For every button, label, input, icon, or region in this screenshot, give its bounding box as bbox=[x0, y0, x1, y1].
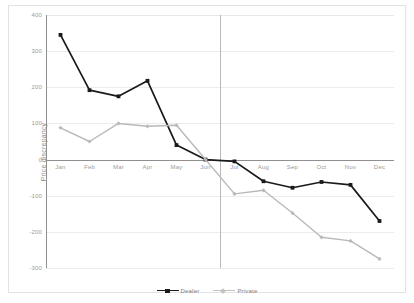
y-axis-tick-label: -100 bbox=[29, 193, 42, 199]
data-point-dealer-jan bbox=[59, 33, 63, 37]
legend-label-private: Private bbox=[237, 288, 257, 294]
price-discrepancy-line-chart: Price discrepancy 4003002001000-100-200-… bbox=[0, 0, 414, 303]
data-point-dealer-oct bbox=[320, 180, 324, 184]
plot-area: 4003002001000-100-200-300JanFebMarAprMay… bbox=[46, 15, 394, 268]
data-point-dealer-jul bbox=[233, 159, 237, 163]
data-point-dealer-may bbox=[175, 143, 179, 147]
data-point-dealer-sep bbox=[291, 186, 295, 190]
legend-label-dealer: Dealer bbox=[181, 288, 200, 294]
y-axis-tick-label: 400 bbox=[31, 12, 42, 18]
legend-line-marker-private-icon bbox=[213, 287, 235, 294]
legend-entry-dealer: Dealer bbox=[157, 287, 200, 294]
data-point-dealer-aug bbox=[262, 179, 266, 183]
data-point-dealer-feb bbox=[88, 88, 92, 92]
y-gridline bbox=[46, 268, 394, 269]
series-line-dealer bbox=[61, 35, 380, 221]
legend-line-marker-dealer-icon bbox=[157, 287, 179, 294]
series-line-private bbox=[61, 123, 380, 259]
chart-legend: Dealer Private bbox=[0, 287, 414, 294]
data-point-dealer-nov bbox=[349, 183, 353, 187]
y-axis-tick-label: -200 bbox=[29, 229, 42, 235]
data-point-private-apr bbox=[145, 124, 149, 128]
y-axis-tick-label: 0 bbox=[38, 157, 42, 163]
y-axis-tick-label: 300 bbox=[31, 48, 42, 54]
y-axis-tick-label: -300 bbox=[29, 265, 42, 271]
data-point-dealer-mar bbox=[117, 94, 121, 98]
legend-entry-private: Private bbox=[213, 287, 257, 294]
series-layer bbox=[46, 15, 394, 268]
data-point-dealer-dec bbox=[378, 219, 382, 223]
y-axis-tick-label: 200 bbox=[31, 84, 42, 90]
y-axis-tick-label: 100 bbox=[31, 120, 42, 126]
data-point-dealer-apr bbox=[146, 79, 150, 83]
